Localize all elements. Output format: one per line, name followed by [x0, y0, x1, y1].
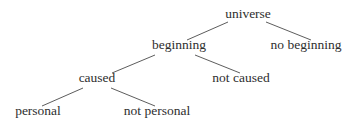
node-personal: personal: [15, 103, 61, 118]
node-not-caused: not caused: [212, 70, 270, 85]
edges: [42, 22, 311, 106]
node-not-personal: not personal: [124, 103, 191, 118]
nodes: universe no beginning beginning not caus…: [15, 6, 342, 118]
tree-diagram: universe no beginning beginning not caus…: [0, 0, 358, 128]
node-no-beginning: no beginning: [271, 37, 342, 52]
node-caused: caused: [79, 70, 116, 85]
node-beginning: beginning: [152, 37, 206, 52]
node-universe: universe: [225, 6, 271, 21]
edge-beginning-caused: [112, 55, 155, 73]
